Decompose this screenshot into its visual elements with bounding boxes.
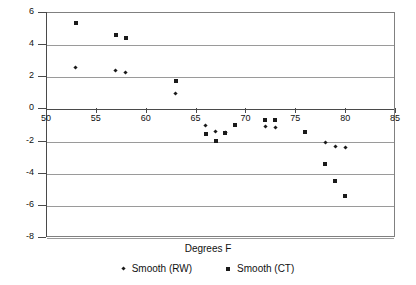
legend-item-smooth-ct[interactable]: Smooth (CT) (226, 263, 294, 274)
data-point-smooth-ct (303, 130, 307, 134)
x-axis-tick-label: 60 (134, 114, 158, 123)
x-axis-tick-label: 80 (333, 114, 357, 123)
data-point-smooth-ct (333, 179, 337, 183)
data-point-smooth-ct (233, 123, 237, 127)
y-axis-tick-label: -2 (8, 136, 34, 145)
gridline (47, 142, 394, 143)
data-point-smooth-ct (343, 194, 347, 198)
y-axis-tick-label: 0 (8, 103, 34, 112)
data-point-smooth-ct (223, 131, 227, 135)
y-axis-tick (38, 12, 46, 13)
x-axis-title: Degrees F (0, 243, 416, 254)
scatter-chart: 6420-2-4-6-8 5055606570758085 Degrees F … (0, 0, 416, 285)
legend-item-smooth-rw[interactable]: Smooth (RW) (122, 263, 192, 274)
legend-label-smooth-rw: Smooth (RW) (132, 263, 192, 274)
y-axis-tick-label: -4 (8, 168, 34, 177)
diamond-marker-icon (121, 266, 125, 270)
gridline (47, 45, 394, 46)
y-axis-tick (38, 173, 46, 174)
data-point-smooth-ct (214, 139, 218, 143)
y-axis-tick (38, 76, 46, 77)
x-axis-zero-line (47, 109, 394, 110)
y-axis-tick (38, 205, 46, 206)
x-axis-tick-label: 65 (184, 114, 208, 123)
data-point-smooth-ct (74, 21, 78, 25)
data-point-smooth-ct (174, 79, 178, 83)
data-point-smooth-ct (114, 33, 118, 37)
y-axis-tick (38, 108, 46, 109)
x-axis-tick-label: 85 (383, 114, 407, 123)
y-axis-tick (38, 44, 46, 45)
x-axis-tick-label: 55 (84, 114, 108, 123)
data-point-smooth-ct (263, 118, 267, 122)
x-axis-tick-label: 75 (283, 114, 307, 123)
x-axis-tick-label: 50 (34, 114, 58, 123)
square-marker-icon (226, 267, 230, 271)
gridline (47, 238, 394, 239)
data-point-smooth-ct (323, 162, 327, 166)
y-axis-tick-label: -8 (8, 232, 34, 241)
gridline (47, 174, 394, 175)
y-axis-tick-label: 4 (8, 39, 34, 48)
legend-label-smooth-ct: Smooth (CT) (237, 263, 294, 274)
y-axis-tick (38, 141, 46, 142)
plot-area (46, 12, 395, 237)
data-point-smooth-ct (204, 132, 208, 136)
data-point-smooth-ct (124, 36, 128, 40)
gridline (47, 206, 394, 207)
y-axis-tick-label: 2 (8, 71, 34, 80)
chart-legend: Smooth (RW) Smooth (CT) (0, 263, 416, 274)
y-axis-line (46, 12, 47, 237)
gridline (47, 77, 394, 78)
y-axis-tick-label: -6 (8, 200, 34, 209)
y-axis-tick-label: 6 (8, 7, 34, 16)
data-point-smooth-ct (273, 118, 277, 122)
y-axis-tick (38, 237, 46, 238)
